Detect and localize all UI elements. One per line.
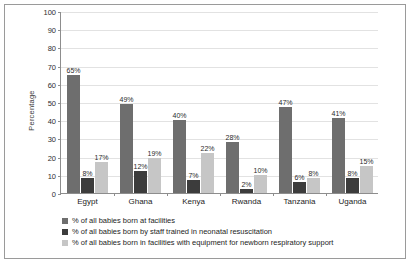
bar-value-label: 47% <box>278 99 292 106</box>
y-axis-tick-label: 60 <box>48 80 56 89</box>
y-axis-title: Percentage <box>24 60 38 160</box>
y-axis-tick-label: 30 <box>48 135 56 144</box>
bar-value-label: 19% <box>147 150 161 157</box>
y-axis-tick-label: 70 <box>48 62 56 71</box>
bar-value-label: 41% <box>331 110 345 117</box>
y-axis-tick-label: 40 <box>48 117 56 126</box>
bar-value-label: 15% <box>359 158 373 165</box>
bar-group-bars: 40%7%22% <box>167 12 220 193</box>
y-axis-tick-label: 50 <box>48 99 56 108</box>
y-axis-tick-label: 90 <box>48 26 56 35</box>
x-axis-category-label: Kenya <box>167 197 220 206</box>
bar[interactable]: 2% <box>240 189 253 193</box>
x-axis-tick <box>220 193 221 196</box>
bar-value-label: 7% <box>188 172 198 179</box>
x-axis-category-label: Egypt <box>61 197 114 206</box>
bar-value-label: 49% <box>119 96 133 103</box>
bar[interactable]: 12% <box>134 171 147 193</box>
legend-color-swatch <box>62 229 68 235</box>
bar[interactable]: 28% <box>226 142 239 193</box>
y-axis-title-label: Percentage <box>27 90 36 130</box>
bar-group-bars: 47%6%8% <box>273 12 326 193</box>
x-axis-category-label: Uganda <box>326 197 379 206</box>
figure-container: Percentage 010203040506070809010065%8%17… <box>0 0 411 264</box>
x-axis-category-label: Tanzania <box>273 197 326 206</box>
x-axis-tick <box>167 193 168 196</box>
plot-area: 010203040506070809010065%8%17%Egypt49%12… <box>60 12 378 194</box>
bar[interactable]: 47% <box>279 107 292 193</box>
x-axis-tick <box>273 193 274 196</box>
bar-value-label: 10% <box>253 167 267 174</box>
x-axis-tick <box>326 193 327 196</box>
y-axis-tick-label: 10 <box>48 171 56 180</box>
y-axis-tick-label: 0 <box>52 190 56 199</box>
bar-value-label: 6% <box>294 174 304 181</box>
y-axis-tick-label: 100 <box>43 8 56 17</box>
bar-group-bars: 41%8%15% <box>326 12 379 193</box>
chart-legend: % of all babies born at facilities% of a… <box>62 216 392 249</box>
legend-item[interactable]: % of all babies born by staff trained in… <box>62 227 392 238</box>
bar-group: 41%8%15%Uganda <box>326 12 379 193</box>
bar-value-label: 65% <box>66 67 80 74</box>
x-axis-category-label: Ghana <box>114 197 167 206</box>
x-axis-category-label: Rwanda <box>220 197 273 206</box>
bar-group-bars: 28%2%10% <box>220 12 273 193</box>
bar[interactable]: 6% <box>293 182 306 193</box>
bar-group-bars: 65%8%17% <box>61 12 114 193</box>
legend-item-label: % of all babies born at facilities <box>72 216 175 226</box>
bar-value-label: 8% <box>308 170 318 177</box>
bar[interactable]: 8% <box>307 178 320 193</box>
bar-value-label: 28% <box>225 134 239 141</box>
bar-value-label: 12% <box>133 163 147 170</box>
bar[interactable]: 49% <box>120 104 133 193</box>
legend-color-swatch <box>62 240 68 246</box>
bar[interactable]: 15% <box>360 166 373 193</box>
bar-group: 65%8%17%Egypt <box>61 12 114 193</box>
bar-group: 49%12%19%Ghana <box>114 12 167 193</box>
y-axis-tick <box>58 194 61 195</box>
y-axis-tick-label: 20 <box>48 153 56 162</box>
bar[interactable]: 40% <box>173 120 186 193</box>
bar-value-label: 22% <box>200 145 214 152</box>
legend-item[interactable]: % of all babies born in facilities with … <box>62 238 392 249</box>
legend-color-swatch <box>62 218 68 224</box>
bar-value-label: 8% <box>347 170 357 177</box>
bar-group: 40%7%22%Kenya <box>167 12 220 193</box>
legend-item[interactable]: % of all babies born at facilities <box>62 216 392 227</box>
bar[interactable]: 17% <box>95 162 108 193</box>
legend-item-label: % of all babies born in facilities with … <box>72 238 333 248</box>
bar-value-label: 8% <box>82 170 92 177</box>
bar[interactable]: 8% <box>81 178 94 193</box>
bar[interactable]: 19% <box>148 158 161 193</box>
x-axis-tick <box>114 193 115 196</box>
bar-group: 47%6%8%Tanzania <box>273 12 326 193</box>
bar[interactable]: 22% <box>201 153 214 193</box>
bar-value-label: 40% <box>172 112 186 119</box>
bar[interactable]: 10% <box>254 175 267 193</box>
bar-group: 28%2%10%Rwanda <box>220 12 273 193</box>
bar[interactable]: 8% <box>346 178 359 193</box>
bar[interactable]: 65% <box>67 75 80 193</box>
bar[interactable]: 41% <box>332 118 345 193</box>
y-axis-tick-label: 80 <box>48 44 56 53</box>
bar-value-label: 2% <box>241 181 251 188</box>
bar-group-bars: 49%12%19% <box>114 12 167 193</box>
legend-item-label: % of all babies born by staff trained in… <box>72 227 272 237</box>
bar-value-label: 17% <box>94 154 108 161</box>
bar[interactable]: 7% <box>187 180 200 193</box>
